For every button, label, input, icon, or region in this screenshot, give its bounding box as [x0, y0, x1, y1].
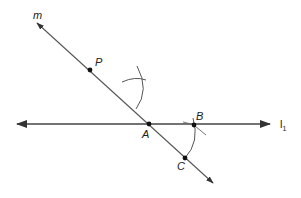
- b-tick-2: [195, 126, 206, 135]
- geometry-diagram: m P A B C l1: [0, 0, 301, 198]
- point-P: [88, 68, 93, 73]
- point-A: [147, 122, 152, 127]
- label-C: C: [177, 160, 185, 172]
- label-l1: l1: [280, 118, 286, 132]
- upper-arc: [136, 66, 143, 109]
- label-A: A: [141, 128, 149, 140]
- label-B: B: [196, 110, 203, 122]
- label-m: m: [33, 9, 42, 21]
- point-B: [192, 123, 197, 128]
- label-P: P: [95, 56, 103, 68]
